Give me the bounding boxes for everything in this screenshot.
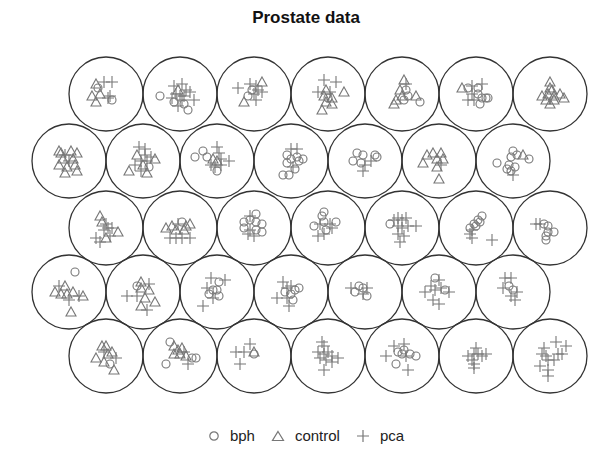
som-cell — [143, 57, 217, 131]
cell-boundary — [143, 191, 217, 265]
pca-point — [402, 364, 414, 376]
som-cell — [291, 191, 365, 265]
som-cell — [365, 191, 439, 265]
bph-point — [285, 171, 293, 179]
pca-point — [234, 358, 246, 370]
bph-point — [156, 92, 164, 100]
bph-point — [392, 360, 400, 368]
control-point — [124, 166, 134, 175]
legend-item-control: control — [271, 427, 340, 444]
pca-point — [110, 352, 122, 364]
pca-point — [283, 300, 295, 312]
control-point — [91, 353, 101, 362]
som-cell — [513, 319, 587, 393]
pca-point — [211, 141, 223, 153]
pca-point — [486, 234, 498, 246]
bph-point — [550, 228, 558, 236]
bph-point — [170, 98, 178, 106]
som-cell — [32, 255, 106, 329]
bph-point — [322, 226, 330, 234]
pca-point — [470, 342, 482, 354]
pca-point — [380, 350, 392, 362]
som-cell — [291, 57, 365, 131]
pca-point — [318, 364, 330, 376]
control-point — [185, 219, 195, 228]
bph-point — [191, 153, 199, 161]
som-cell — [439, 319, 513, 393]
bph-point — [215, 278, 223, 286]
legend-item-bph: bph — [208, 427, 255, 444]
control-point — [239, 97, 249, 106]
pca-point — [419, 286, 431, 298]
bph-point — [166, 338, 174, 346]
legend-label-bph: bph — [230, 427, 255, 444]
bph-point — [357, 159, 365, 167]
bph-point — [332, 218, 340, 226]
som-cell — [217, 57, 291, 131]
plus-marker-icon — [356, 429, 370, 443]
cell-boundary — [69, 319, 143, 393]
bph-point — [493, 159, 501, 167]
control-point — [399, 75, 409, 84]
bph-point — [162, 360, 170, 368]
bph-point — [373, 153, 381, 161]
cell-boundary — [217, 191, 291, 265]
cell-boundary — [402, 255, 476, 329]
control-point — [109, 365, 119, 374]
som-cell — [439, 191, 513, 265]
pca-point — [219, 274, 231, 286]
pca-point — [232, 82, 244, 94]
som-cell — [328, 255, 402, 329]
som-cell — [106, 124, 180, 198]
bph-point — [199, 147, 207, 155]
som-cell — [291, 319, 365, 393]
pca-point — [318, 74, 330, 86]
bph-point — [349, 157, 357, 165]
som-cell — [143, 319, 217, 393]
pca-point — [435, 159, 447, 171]
som-cell — [365, 319, 439, 393]
bph-point — [71, 268, 79, 276]
pca-point — [238, 346, 250, 358]
circle-marker-icon — [208, 430, 220, 442]
som-cell — [476, 255, 550, 329]
control-point — [72, 166, 82, 175]
legend: bph control pca — [0, 427, 612, 444]
bph-point — [371, 151, 379, 159]
pca-point — [476, 78, 488, 90]
pca-point — [330, 76, 342, 88]
som-cell — [180, 255, 254, 329]
control-point — [434, 174, 444, 183]
legend-item-pca: pca — [356, 427, 404, 444]
bph-point — [431, 274, 439, 282]
som-cell — [254, 255, 328, 329]
som-cell — [365, 57, 439, 131]
control-point — [91, 79, 101, 88]
triangle-marker-icon — [271, 430, 285, 442]
som-cell — [217, 319, 291, 393]
som-cell — [439, 57, 513, 131]
control-point — [66, 307, 76, 316]
control-point — [150, 297, 160, 306]
pca-point — [542, 370, 554, 382]
som-cell — [513, 191, 587, 265]
legend-label-pca: pca — [380, 427, 404, 444]
legend-label-control: control — [295, 427, 340, 444]
bph-point — [108, 96, 116, 104]
control-point — [422, 150, 432, 159]
control-point — [545, 77, 555, 86]
bph-point — [178, 218, 186, 226]
som-cell — [69, 57, 143, 131]
som-cell — [143, 191, 217, 265]
som-cell — [254, 124, 328, 198]
bph-point — [484, 94, 492, 102]
bph-point — [250, 350, 258, 358]
bph-point — [213, 167, 221, 175]
cell-boundary — [143, 319, 217, 393]
som-cell — [217, 191, 291, 265]
pca-point — [281, 292, 293, 304]
som-map-plot — [0, 0, 612, 472]
som-cell — [69, 191, 143, 265]
pca-point — [197, 300, 209, 312]
som-cell — [32, 124, 106, 198]
